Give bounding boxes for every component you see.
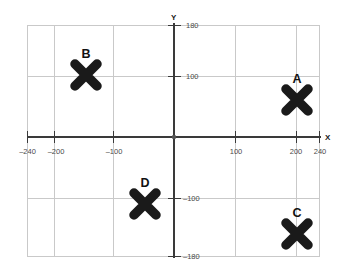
ticklabel-y-100: 100 — [186, 72, 199, 81]
ticklabel-x-200: 200 — [290, 147, 303, 156]
data-point-label-d: D — [140, 176, 149, 190]
marker-x-d — [134, 193, 156, 215]
ticklabel-y-180: 180 — [186, 21, 199, 30]
plot-area: –240 –200 –100 100 200 240 180 100 –100 … — [0, 0, 341, 267]
ticklabel-y-neg100: –100 — [183, 194, 200, 203]
ticklabel-y-neg180: –180 — [183, 252, 200, 261]
x-axis-label: X — [325, 133, 331, 142]
y-axis-label: Y — [171, 13, 177, 22]
data-point-b: B — [75, 47, 97, 86]
origin-point — [172, 135, 176, 139]
ticklabel-x-240: 240 — [314, 147, 327, 156]
data-point-label-a: A — [292, 72, 301, 86]
data-point-d: D — [134, 176, 156, 215]
ticklabel-x-neg200: –200 — [48, 147, 65, 156]
data-point-label-b: B — [81, 47, 90, 61]
marker-x-b — [75, 64, 97, 86]
ticklabel-x-neg100: –100 — [106, 147, 123, 156]
ticklabel-x-neg240: –240 — [19, 147, 36, 156]
data-point-label-c: C — [292, 206, 301, 220]
ticklabel-x-100: 100 — [230, 147, 243, 156]
